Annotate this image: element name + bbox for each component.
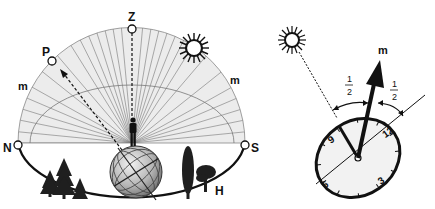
trees-left bbox=[40, 158, 88, 199]
sun-icon bbox=[179, 33, 209, 63]
meridian-label: m bbox=[378, 44, 388, 56]
sun-direction-line bbox=[299, 52, 337, 118]
sun-icon bbox=[278, 26, 306, 54]
pole-label: P bbox=[42, 45, 50, 59]
zenith-point bbox=[128, 25, 136, 33]
watch-compass: 12 3 6 9 m 1 2 1 2 bbox=[278, 26, 425, 209]
watch-icon: 12 3 6 9 bbox=[301, 95, 425, 209]
south-label: S bbox=[251, 141, 259, 155]
celestial-sphere: Z P m m N S H bbox=[0, 0, 284, 205]
diagram-canvas: Z P m m N S H bbox=[0, 0, 435, 209]
trees-right bbox=[182, 146, 216, 199]
fraction-left-numerator: 1 bbox=[347, 74, 352, 84]
north-label: N bbox=[3, 141, 12, 155]
fraction-right-denominator: 2 bbox=[392, 92, 397, 102]
fraction-left-denominator: 2 bbox=[347, 87, 352, 97]
meridian-label-left: m bbox=[18, 80, 28, 92]
horizon-label: H bbox=[215, 184, 224, 198]
meridian-label-right: m bbox=[230, 74, 240, 86]
south-point bbox=[241, 141, 249, 149]
fraction-right-numerator: 1 bbox=[392, 79, 397, 89]
zenith-label: Z bbox=[128, 10, 135, 24]
north-point bbox=[14, 141, 22, 149]
